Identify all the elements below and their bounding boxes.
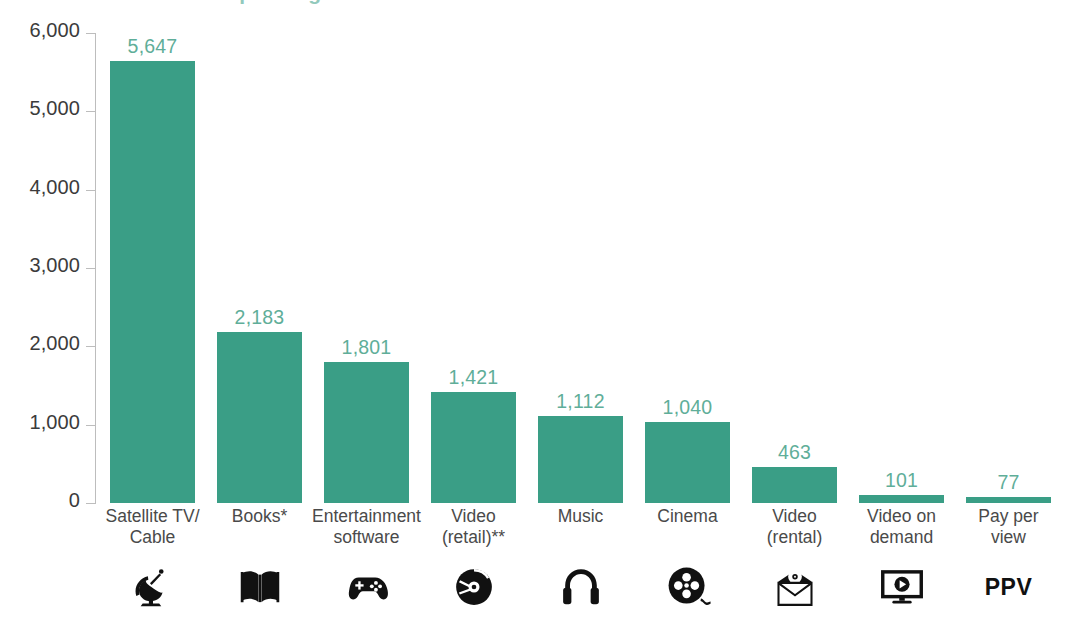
x-axis-label: Music	[524, 506, 637, 527]
headphones-icon-glyph	[559, 565, 603, 609]
y-axis-tick-label: 4,000	[2, 176, 80, 199]
x-axis-label: Video on demand	[845, 506, 958, 548]
y-axis-tick-label: 2,000	[2, 332, 80, 355]
open-book-icon	[217, 558, 302, 616]
film-reel-icon-glyph	[665, 564, 711, 610]
bar	[431, 392, 516, 503]
category-icon-row: PPV	[95, 558, 1088, 620]
bar	[538, 416, 623, 503]
bar-group: 1,801	[324, 33, 409, 503]
ppv-label: PPV	[985, 574, 1033, 601]
bar	[645, 422, 730, 503]
disc-in-envelope-icon	[752, 558, 837, 616]
film-reel-icon	[645, 558, 730, 616]
compact-disc-icon-glyph	[452, 565, 496, 609]
compact-disc-icon	[431, 558, 516, 616]
x-axis-label: Books*	[203, 506, 316, 527]
game-controller-icon-glyph	[345, 565, 389, 609]
x-axis-label: Video (rental)	[738, 506, 851, 548]
bar-value-label: 1,421	[449, 366, 499, 389]
bar-chart: Consumer spending on home entertainment …	[0, 0, 1088, 620]
bar-group: 1,112	[538, 33, 623, 503]
bar-value-label: 1,801	[342, 336, 392, 359]
bar-group: 5,647	[110, 33, 195, 503]
bar-group: 1,421	[431, 33, 516, 503]
chart-title-text: Consumer spending on home entertainment	[118, 0, 559, 5]
bar	[110, 61, 195, 503]
tv-play-icon-glyph	[878, 565, 926, 609]
bar-value-label: 463	[778, 441, 811, 464]
y-axis-tick	[86, 503, 96, 504]
open-book-icon-glyph	[238, 565, 282, 609]
bar-value-label: 101	[885, 469, 918, 492]
satellite-dish-icon-glyph	[131, 565, 175, 609]
bar-group: 77	[966, 33, 1051, 503]
y-axis-tick-label: 3,000	[2, 254, 80, 277]
x-axis-label: Video (retail)**	[417, 506, 530, 548]
bar	[217, 332, 302, 503]
x-axis-label: Entertainment software	[310, 506, 423, 548]
satellite-dish-icon	[110, 558, 195, 616]
x-axis-label: Satellite TV/ Cable	[96, 506, 209, 548]
x-axis-label: Pay per view	[952, 506, 1065, 548]
bar	[966, 497, 1051, 503]
bar-value-label: 5,647	[128, 35, 178, 58]
chart-title-clipped: Consumer spending on home entertainment	[0, 0, 1088, 5]
bar	[324, 362, 409, 503]
ppv-text-icon: PPV	[966, 558, 1051, 616]
headphones-icon	[538, 558, 623, 616]
plot-area: 5,6472,1831,8011,4211,1121,04046310177	[95, 33, 1088, 503]
y-axis-tick-label: 1,000	[2, 411, 80, 434]
bar	[752, 467, 837, 503]
bar-group: 101	[859, 33, 944, 503]
bar-group: 1,040	[645, 33, 730, 503]
y-axis-tick-label: 6,000	[2, 19, 80, 42]
disc-in-envelope-icon-glyph	[773, 565, 817, 609]
bar-value-label: 1,040	[663, 396, 713, 419]
bar-value-label: 77	[997, 471, 1019, 494]
x-axis-label: Cinema	[631, 506, 744, 527]
bar	[859, 495, 944, 503]
bar-value-label: 2,183	[235, 306, 285, 329]
game-controller-icon	[324, 558, 409, 616]
x-axis-labels: Satellite TV/ CableBooks*Entertainment s…	[95, 506, 1088, 554]
bar-value-label: 1,112	[556, 390, 604, 413]
y-axis-tick-label: 5,000	[2, 97, 80, 120]
bar-group: 2,183	[217, 33, 302, 503]
y-axis-tick-label: 0	[2, 489, 80, 512]
tv-play-icon	[859, 558, 944, 616]
bar-group: 463	[752, 33, 837, 503]
